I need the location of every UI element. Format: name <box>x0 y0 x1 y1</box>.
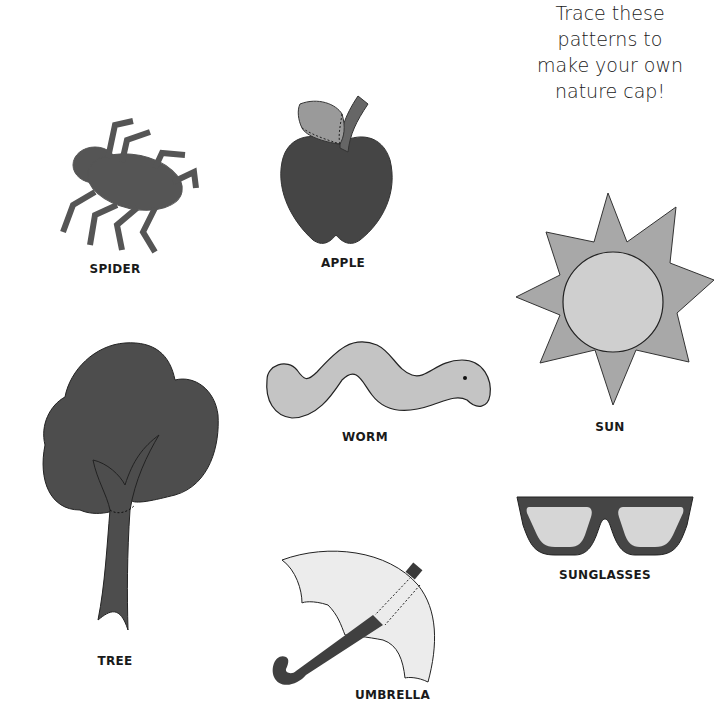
title-line: Trace these <box>505 0 714 26</box>
title-line: nature cap! <box>505 78 714 104</box>
tree-icon <box>35 335 220 635</box>
umbrella-icon <box>268 545 443 690</box>
worm-icon <box>262 340 492 425</box>
sunglasses-icon <box>515 495 695 560</box>
sun-label: SUN <box>585 420 635 434</box>
tree-label: TREE <box>90 654 140 668</box>
title-line: make your own <box>505 52 714 78</box>
spider-label: SPIDER <box>80 262 150 276</box>
apple-label: APPLE <box>313 256 373 270</box>
worm-label: WORM <box>330 430 400 444</box>
instructions-title: Trace these patterns to make your own na… <box>505 0 714 104</box>
umbrella-label: UMBRELLA <box>350 688 435 702</box>
sunglasses-label: SUNGLASSES <box>550 568 660 582</box>
apple-icon <box>278 92 398 252</box>
title-line: patterns to <box>505 26 714 52</box>
sun-icon <box>512 190 714 410</box>
spider-icon <box>55 120 205 250</box>
